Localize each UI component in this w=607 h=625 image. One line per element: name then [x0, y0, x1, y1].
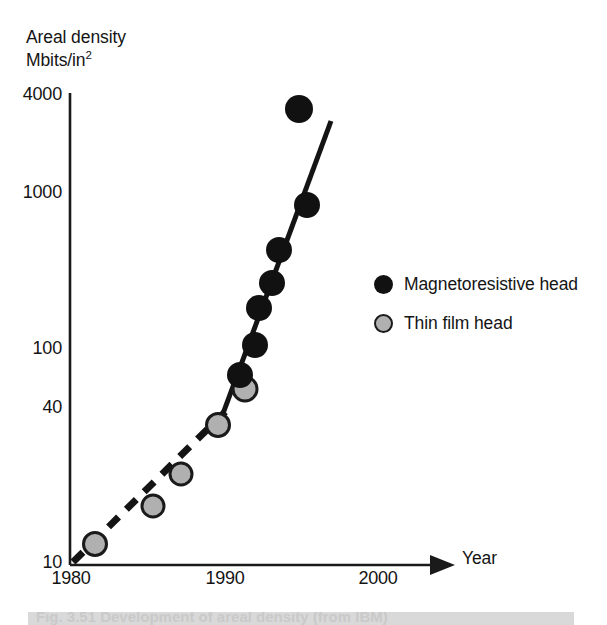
legend-item-magnetoresistive: Magnetoresistive head [374, 274, 578, 295]
data-point-magnetoresistive [259, 270, 285, 296]
data-point-thin-film [142, 495, 164, 517]
data-point-magnetoresistive [285, 95, 313, 123]
figure-caption-text: Fig. 3.51 Development of areal density (… [36, 612, 388, 625]
data-point-thin-film [207, 414, 230, 437]
data-point-magnetoresistive [294, 192, 320, 218]
data-point-magnetoresistive [266, 237, 292, 263]
data-point-thin-film [84, 533, 107, 556]
figure-caption-strip: Fig. 3.51 Development of areal density (… [28, 612, 574, 625]
data-point-magnetoresistive [246, 295, 272, 321]
areal-density-chart: Areal density Mbits/in2 4000 1000 100 40… [0, 0, 607, 625]
data-point-thin-film [170, 463, 192, 485]
data-point-magnetoresistive [227, 362, 253, 388]
plot-area [0, 0, 607, 625]
legend-label-magnetoresistive: Magnetoresistive head [404, 274, 578, 295]
x-axis-arrowhead [430, 555, 455, 575]
legend-item-thin-film: Thin film head [374, 313, 513, 334]
legend-marker-filled-circle-icon [374, 275, 393, 294]
legend-marker-gray-circle-icon [374, 314, 393, 333]
data-point-magnetoresistive [242, 332, 268, 358]
legend-label-thin-film: Thin film head [404, 313, 513, 334]
